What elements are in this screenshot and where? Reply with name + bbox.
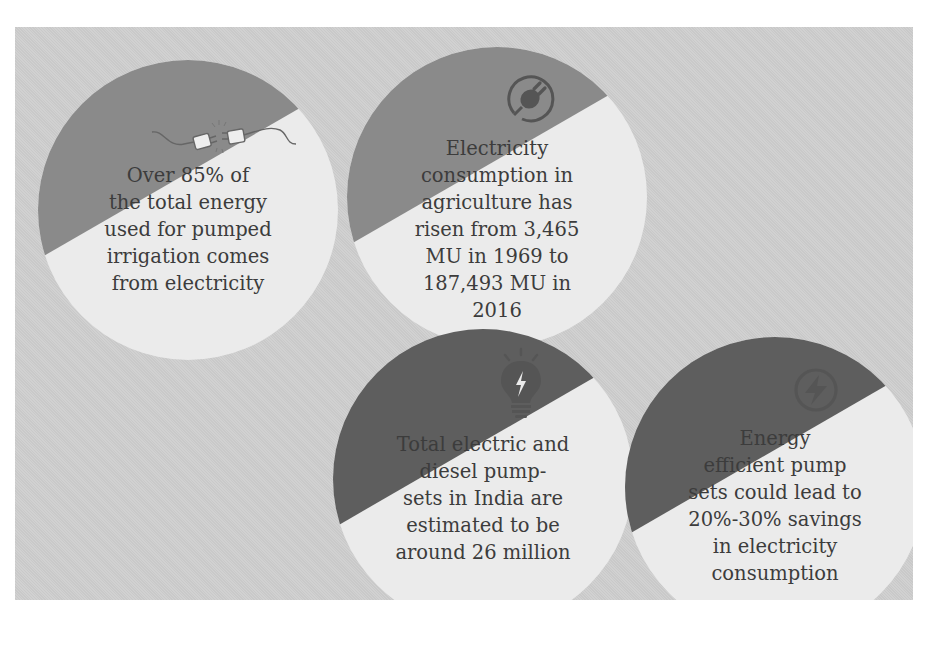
fact-card-consumption-growth: Electricity consumption in agriculture h…: [347, 47, 647, 347]
fact-line: diesel pump-: [373, 458, 593, 485]
lightning-circle-icon: [793, 367, 839, 413]
fact-line: MU in 1969 to: [387, 243, 607, 270]
fact-text: Over 85% of the total energy used for pu…: [78, 162, 298, 297]
infographic-panel: Over 85% of the total energy used for pu…: [15, 27, 913, 600]
fact-line: estimated to be: [373, 512, 593, 539]
fact-line: used for pumped: [78, 216, 298, 243]
fact-line: around 26 million: [373, 539, 593, 566]
fact-line: in electricity: [665, 533, 885, 560]
fact-line: agriculture has: [387, 189, 607, 216]
fact-line: Over 85% of: [78, 162, 298, 189]
fact-line: consumption: [665, 560, 885, 587]
fact-line: 187,493 MU in: [387, 270, 607, 297]
fact-text: Energy efficient pump sets could lead to…: [665, 425, 885, 587]
fact-line: 2016: [387, 297, 607, 324]
fact-line: Energy: [665, 425, 885, 452]
fact-line: 20%-30% savings: [665, 506, 885, 533]
fact-card-pumpsets-count: Total electric and diesel pump- sets in …: [333, 329, 633, 600]
fact-line: from electricity: [78, 270, 298, 297]
fact-line: sets could lead to: [665, 479, 885, 506]
plug-disconnect-icon: [150, 118, 300, 158]
fact-line: risen from 3,465: [387, 216, 607, 243]
fact-card-electricity-share: Over 85% of the total energy used for pu…: [38, 60, 338, 360]
fact-text: Total electric and diesel pump- sets in …: [373, 431, 593, 566]
lightbulb-bolt-icon: [499, 347, 543, 419]
fact-line: irrigation comes: [78, 243, 298, 270]
fact-card-efficiency-savings: Energy efficient pump sets could lead to…: [625, 337, 913, 600]
fact-line: Electricity: [387, 135, 607, 162]
fact-line: consumption in: [387, 162, 607, 189]
fact-line: Total electric and: [373, 431, 593, 458]
fact-line: efficient pump: [665, 452, 885, 479]
fact-line: sets in India are: [373, 485, 593, 512]
fact-line: the total energy: [78, 189, 298, 216]
plug-circle-icon: [502, 69, 558, 125]
fact-text: Electricity consumption in agriculture h…: [387, 135, 607, 324]
